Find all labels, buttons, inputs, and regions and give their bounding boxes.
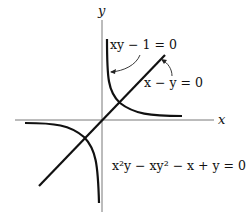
y-axis-label: y: [97, 3, 106, 18]
hyperbola-arrowhead-icon: [110, 69, 116, 74]
combined-equation-label: x²y − xy² − x + y = 0: [112, 158, 246, 173]
hyperbola-equation-label: xy − 1 = 0: [110, 37, 177, 52]
line-equation-label: x − y = 0: [144, 75, 203, 90]
line-arrowhead-icon: [161, 59, 167, 64]
diagram-canvas: x y xy − 1 = 0 x − y = 0 x²y − xy² − x +…: [0, 0, 252, 219]
x-axis-label: x: [218, 112, 226, 127]
